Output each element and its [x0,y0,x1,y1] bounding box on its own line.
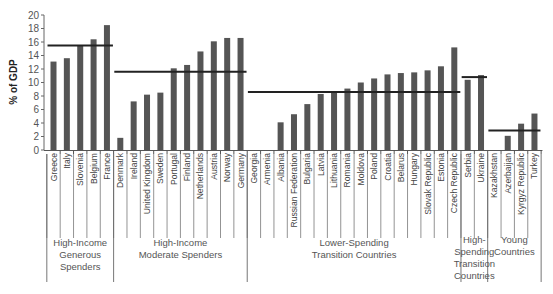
category-label: Croatia [383,153,393,181]
category-label: Austria [209,153,219,180]
y-axis: 02468101214161820 [28,10,44,156]
category-label: Moldova [356,153,366,186]
category-label: Latvia [316,153,326,176]
bar [238,38,244,150]
y-tick-label: 10 [28,77,40,88]
bar [344,89,350,150]
category-label: Kyrgyz Republic [516,152,526,215]
group-label: High-IncomeModerate Spenders [139,237,223,260]
y-tick-label: 12 [28,64,40,75]
bar [117,138,123,150]
category-label: Romania [342,153,352,188]
bar [438,66,444,150]
category-label: Sweden [155,153,165,184]
bars [51,25,538,150]
bar [77,45,83,150]
category-label: Greece [49,153,59,181]
category-label: Estonia [436,153,446,182]
bar [465,80,471,150]
y-tick-label: 20 [28,10,40,21]
category-label: Russian Federation [289,153,299,228]
bar [224,38,230,150]
group-labels: High-IncomeGenerousSpendersHigh-IncomeMo… [53,234,535,281]
category-label: Czech Republic [449,152,459,213]
bar [91,39,97,150]
y-tick-label: 8 [33,91,39,102]
y-tick-label: 6 [33,104,39,115]
category-label: Armenia [262,153,272,185]
category-label: Poland [369,153,379,180]
y-tick-label: 2 [33,131,39,142]
category-label: Kazakhstan [489,153,499,198]
category-label: Finland [182,153,192,181]
bar [64,58,70,150]
category-label: Netherlands [195,153,205,199]
bar [385,74,391,150]
category-label: Serbia [463,153,473,178]
bar [211,41,217,150]
bar [304,104,310,150]
bar [51,62,57,150]
bar [505,136,511,150]
bar [411,72,417,150]
category-label: Albania [276,153,286,182]
category-label: Azerbaijan [503,153,513,194]
category-label: Belgium [89,153,99,184]
category-label: Hungary [409,152,419,185]
bar [197,51,203,150]
bar [371,78,377,150]
category-label: Bulgaria [302,153,312,185]
y-axis-label: % of GDP [8,59,19,105]
category-label: United Kingdom [142,153,152,214]
category-label: Portugal [169,153,179,185]
y-tick-label: 16 [28,37,40,48]
bar [104,25,110,150]
category-label: Ukraine [476,153,486,183]
category-label: Denmark [115,152,125,188]
category-label: Ireland [129,153,139,179]
category-label: Germany [236,152,246,188]
bar [157,93,163,150]
bar [318,94,324,150]
category-label: Slovenia [75,153,85,186]
bar [184,65,190,150]
category-label: Italy [62,152,72,168]
category-label: Belarus [396,153,406,182]
group-label: High-SpendingTransitionCountries [454,234,495,281]
bar [425,70,431,150]
bar [398,73,404,150]
y-tick-label: 14 [28,50,40,61]
bar-chart: 02468101214161820 % of GDP GreeceItalySl… [0,0,553,294]
group-label: High-IncomeGenerousSpenders [53,237,107,272]
bar [331,93,337,150]
category-label: Turkey [529,152,539,179]
y-tick-label: 0 [33,145,39,156]
bar [131,101,137,150]
bar [478,75,484,150]
category-label: Lithuania [329,153,339,188]
category-labels: GreeceItalySloveniaBelgiumFranceDenmarkI… [49,152,540,227]
bar [531,114,537,150]
group-label: YoungCountries [494,234,535,257]
y-tick-label: 4 [33,118,39,129]
bar [518,124,524,150]
bar [144,95,150,150]
bar [278,122,284,150]
category-label: Slovak Republic [423,152,433,214]
category-label: Georgia [249,153,259,184]
bar [171,68,177,150]
y-tick-label: 18 [28,23,40,34]
category-label: Norway [222,152,232,182]
bar [451,47,457,150]
group-label: Lower-SpendingTransition Countries [312,237,397,260]
category-label: France [102,153,112,180]
bar [291,114,297,150]
